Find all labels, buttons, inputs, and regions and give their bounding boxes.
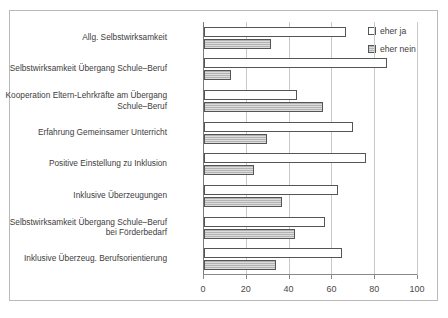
bar-eher-ja <box>204 217 325 227</box>
bar-eher-ja <box>204 58 387 68</box>
axis-tick <box>331 275 332 279</box>
bar-group <box>203 27 417 49</box>
axis-tick-label: 80 <box>369 284 379 294</box>
category-label: Positive Einstellung zu Inklusion <box>0 158 167 169</box>
bar-group <box>203 185 417 207</box>
bar-eher-nein <box>204 260 276 270</box>
gridline <box>417 22 418 275</box>
bar-eher-ja <box>204 122 353 132</box>
axis-tick-label: 20 <box>241 284 251 294</box>
bar-group <box>203 217 417 239</box>
category-label: Kooperation Eltern-Lehrkräfte am Übergan… <box>0 90 167 111</box>
bar-eher-ja <box>204 185 338 195</box>
bar-eher-nein <box>204 134 267 144</box>
x-axis-line <box>203 274 417 275</box>
bar-group <box>203 90 417 112</box>
bar-group <box>203 58 417 80</box>
axis-tick-label: 0 <box>200 284 205 294</box>
bar-eher-nein <box>204 102 323 112</box>
category-label: Selbstwirksamkeit Übergang Schule–Beruf … <box>0 217 167 238</box>
axis-tick <box>417 275 418 279</box>
category-label: Selbstwirksamkeit Übergang Schule–Beruf <box>0 63 167 74</box>
axis-tick-label: 100 <box>409 284 424 294</box>
category-label: Allg. Selbstwirksamkeit <box>0 32 167 43</box>
bar-group <box>203 153 417 175</box>
axis-tick <box>374 275 375 279</box>
bar-eher-nein <box>204 39 271 49</box>
bar-group <box>203 248 417 270</box>
category-label: Erfahrung Gemeinsamer Unterricht <box>0 127 167 138</box>
category-label: Inklusive Überzeugungen <box>0 190 167 201</box>
axis-tick <box>246 275 247 279</box>
bar-eher-ja <box>204 90 297 100</box>
axis-tick <box>289 275 290 279</box>
plot-area: 020406080100Allg. SelbstwirksamkeitSelbs… <box>203 22 417 275</box>
bar-eher-nein <box>204 229 295 239</box>
category-label: Inklusive Überzeug. Berufsorientierung <box>0 253 167 264</box>
chart-container: eher ja eher nein 020406080100Allg. Selb… <box>0 0 448 318</box>
axis-tick-label: 40 <box>284 284 294 294</box>
axis-tick-label: 60 <box>326 284 336 294</box>
bar-group <box>203 122 417 144</box>
axis-tick <box>203 275 204 279</box>
bar-eher-nein <box>204 197 282 207</box>
bar-eher-ja <box>204 153 366 163</box>
bar-eher-nein <box>204 70 231 80</box>
bar-eher-nein <box>204 165 254 175</box>
bar-eher-ja <box>204 248 342 258</box>
bar-eher-ja <box>204 27 346 37</box>
